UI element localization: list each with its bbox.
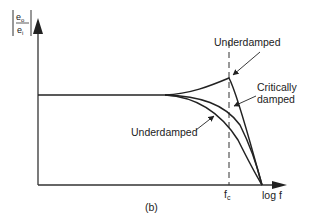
y-axis [33, 18, 43, 185]
cutoff-frequency-label: fc [224, 188, 231, 201]
x-axis-arrow-icon [272, 181, 287, 189]
svg-text:damped: damped [257, 93, 295, 105]
svg-text:Critically: Critically [257, 81, 297, 93]
svg-text:ei: ei [17, 25, 23, 36]
figure-caption: (b) [145, 201, 158, 213]
annotation-underdamped-bottom: Underdamped [131, 116, 214, 138]
frequency-response-diagram: eo ei Underdamped Critically damped Unde… [0, 0, 310, 215]
annotation-underdamped-top: Underdamped [214, 36, 281, 75]
svg-text:Underdamped: Underdamped [214, 36, 281, 48]
svg-text:eo: eo [16, 12, 25, 23]
curve-critically-damped [165, 95, 262, 185]
annotation-critically-damped: Critically damped [234, 81, 297, 106]
svg-text:Underdamped: Underdamped [131, 126, 198, 138]
x-axis [38, 181, 287, 189]
x-axis-label: log f [262, 189, 282, 201]
y-axis-arrow-icon [33, 18, 43, 34]
y-axis-label: eo ei [13, 10, 31, 36]
